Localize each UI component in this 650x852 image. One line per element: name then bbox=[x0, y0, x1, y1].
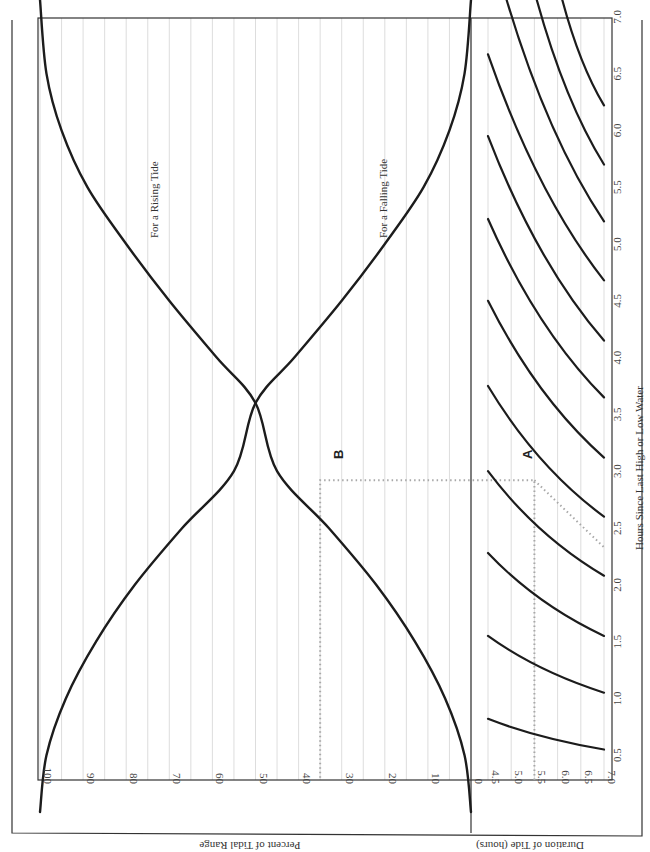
duration-line bbox=[488, 136, 604, 340]
tick-labels: 0.51.01.52.02.53.03.54.04.55.05.56.06.57… bbox=[42, 9, 623, 784]
guide-a-b bbox=[320, 480, 534, 780]
duration-tick-label: 5.0 bbox=[513, 770, 525, 784]
guide-diagonal bbox=[534, 480, 604, 547]
duration-line bbox=[488, 636, 604, 693]
x-tick-label: 2.0 bbox=[611, 577, 623, 591]
annotation-a: A bbox=[520, 449, 535, 459]
duration-line bbox=[488, 386, 604, 517]
duration-tick-label: 7.0 bbox=[606, 770, 618, 784]
x-tick-label: 1.0 bbox=[611, 691, 623, 705]
duration-line bbox=[488, 719, 604, 750]
outer-frame bbox=[12, 20, 642, 836]
duration-tick-label: 5.5 bbox=[536, 770, 548, 784]
duration-tick-label: 6.0 bbox=[560, 770, 572, 784]
y-tick-label: 40 bbox=[301, 773, 313, 785]
y-tick-label: 60 bbox=[214, 773, 226, 785]
plot-frame bbox=[38, 18, 612, 780]
x-tick-label: 7.0 bbox=[611, 9, 623, 23]
y-tick-label: 50 bbox=[258, 773, 270, 785]
x-tick-label: 3.0 bbox=[611, 464, 623, 478]
duration-line bbox=[507, 0, 604, 221]
rising-tide-label: For a Rising Tide bbox=[148, 161, 160, 238]
duration-line bbox=[562, 0, 604, 105]
y-tick-label: 0 bbox=[473, 779, 485, 785]
duration-lines bbox=[488, 0, 604, 750]
duration-tick-label: 6.5 bbox=[583, 770, 595, 784]
y-tick-label: 70 bbox=[171, 773, 183, 785]
x-tick-label: 6.5 bbox=[611, 66, 623, 80]
x-tick-label: 5.0 bbox=[611, 237, 623, 251]
x-tick-label: 2.5 bbox=[611, 521, 623, 535]
duration-line bbox=[488, 471, 604, 576]
duration-tick-label: 4.5 bbox=[490, 770, 502, 784]
falling-tide-label: For a Falling Tide bbox=[377, 159, 389, 238]
x-tick-label: 5.5 bbox=[611, 180, 623, 194]
x-tick-label: 6.0 bbox=[611, 123, 623, 137]
duration-axis-label: Duration of Tide (hours) bbox=[476, 839, 584, 852]
x-tick-label: 4.5 bbox=[611, 293, 623, 307]
x-tick-label: 0.5 bbox=[611, 748, 623, 762]
guide-lines bbox=[320, 480, 604, 780]
chart-frames bbox=[12, 18, 642, 836]
duration-line bbox=[488, 54, 604, 280]
y-axis-label: Percent of Tidal Range bbox=[199, 840, 300, 852]
y-tick-label: 30 bbox=[344, 773, 356, 785]
y-tick-label: 100 bbox=[42, 768, 54, 785]
duration-line bbox=[488, 219, 604, 397]
x-axis-label: Hours Since Last High or Low Water bbox=[633, 386, 645, 550]
x-tick-label: 4.0 bbox=[611, 350, 623, 364]
y-tick-label: 20 bbox=[387, 773, 399, 785]
annotation-b: B bbox=[331, 450, 346, 459]
y-tick-label: 90 bbox=[85, 773, 97, 785]
tidal-range-chart: 0.51.01.52.02.53.03.54.04.55.05.56.06.57… bbox=[0, 0, 650, 852]
x-tick-label: 3.5 bbox=[611, 407, 623, 421]
y-tick-label: 10 bbox=[430, 773, 442, 785]
x-tick-label: 1.5 bbox=[611, 634, 623, 648]
y-tick-label: 80 bbox=[128, 773, 140, 785]
